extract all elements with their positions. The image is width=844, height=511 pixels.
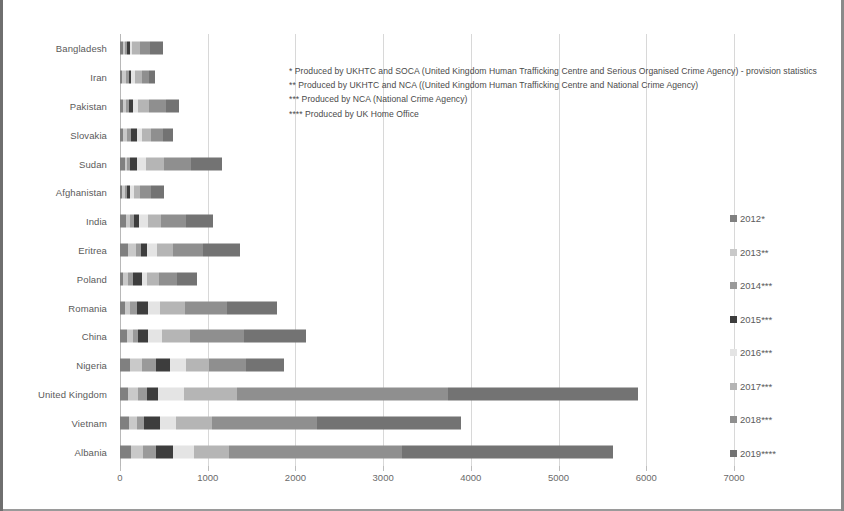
legend-item-2017[interactable]: 2017*** bbox=[730, 381, 772, 392]
x-tick-mark-3000 bbox=[383, 466, 384, 471]
bar-segment bbox=[149, 100, 165, 113]
bar-segment bbox=[142, 359, 156, 372]
bar-afghanistan[interactable] bbox=[120, 186, 734, 199]
y-axis-label-sudan: Sudan bbox=[79, 158, 107, 169]
bar-segment bbox=[137, 301, 148, 314]
bar-segment bbox=[203, 244, 240, 257]
x-tick-mark-5000 bbox=[559, 466, 560, 471]
bar-segment bbox=[138, 330, 148, 343]
y-axis-category-labels: BangladeshIranPakistanSlovakiaSudanAfgha… bbox=[3, 34, 115, 466]
bar-bangladesh[interactable] bbox=[120, 42, 734, 55]
bar-albania[interactable] bbox=[120, 445, 734, 458]
bar-segment bbox=[130, 157, 137, 170]
legend-item-2019[interactable]: 2019**** bbox=[730, 448, 776, 459]
x-tick-label-2000: 2000 bbox=[285, 472, 306, 483]
footnote-1: * Produced by UKHTC and SOCA (United Kin… bbox=[289, 64, 834, 78]
bar-segment bbox=[148, 301, 160, 314]
legend-label: 2016*** bbox=[740, 347, 772, 358]
legend-label: 2018*** bbox=[740, 414, 772, 425]
bar-segment bbox=[185, 301, 227, 314]
bar-segment bbox=[128, 244, 135, 257]
bar-segment bbox=[161, 215, 186, 228]
legend-label: 2014*** bbox=[740, 280, 772, 291]
bar-segment bbox=[212, 416, 317, 429]
bar-segment bbox=[140, 186, 150, 199]
legend-label: 2019**** bbox=[740, 448, 776, 459]
x-tick-mark-1000 bbox=[208, 466, 209, 471]
y-axis-label-united-kingdom: United Kingdom bbox=[38, 389, 107, 400]
y-axis-label-eritrea: Eritrea bbox=[78, 245, 107, 256]
bar-segment bbox=[402, 445, 613, 458]
legend-item-2016[interactable]: 2016*** bbox=[730, 347, 772, 358]
bar-segment bbox=[164, 157, 191, 170]
bar-segment bbox=[448, 388, 637, 401]
bar-segment bbox=[150, 42, 163, 55]
legend-label: 2012* bbox=[740, 213, 765, 224]
stacked-bar-chart: BangladeshIranPakistanSlovakiaSudanAfgha… bbox=[3, 0, 844, 511]
legend-item-2018[interactable]: 2018*** bbox=[730, 414, 772, 425]
bar-sudan[interactable] bbox=[120, 157, 734, 170]
bar-segment bbox=[138, 388, 146, 401]
bar-segment bbox=[237, 388, 448, 401]
bar-segment bbox=[120, 416, 129, 429]
bar-segment bbox=[134, 186, 141, 199]
bar-slovakia[interactable] bbox=[120, 128, 734, 141]
footnote-4: **** Produced by UK Home Office bbox=[289, 107, 834, 121]
y-axis-label-romania: Romania bbox=[68, 302, 107, 313]
bar-china[interactable] bbox=[120, 330, 734, 343]
x-tick-label-5000: 5000 bbox=[548, 472, 569, 483]
bar-segment bbox=[173, 445, 194, 458]
bar-segment bbox=[144, 416, 160, 429]
y-axis-label-nigeria: Nigeria bbox=[76, 360, 107, 371]
legend-item-2014[interactable]: 2014*** bbox=[730, 280, 772, 291]
y-axis-label-india: India bbox=[86, 216, 107, 227]
bar-vietnam[interactable] bbox=[120, 416, 734, 429]
bar-segment bbox=[190, 330, 244, 343]
bar-segment bbox=[177, 272, 197, 285]
bar-segment bbox=[151, 128, 162, 141]
x-tick-label-4000: 4000 bbox=[460, 472, 481, 483]
y-axis-label-bangladesh: Bangladesh bbox=[56, 43, 107, 54]
bar-segment bbox=[184, 388, 238, 401]
bar-united-kingdom[interactable] bbox=[120, 388, 734, 401]
bar-segment bbox=[151, 186, 164, 199]
bar-segment bbox=[156, 359, 171, 372]
bar-segment bbox=[147, 272, 158, 285]
bar-nigeria[interactable] bbox=[120, 359, 734, 372]
bar-poland[interactable] bbox=[120, 272, 734, 285]
y-axis-label-poland: Poland bbox=[77, 273, 107, 284]
bar-segment bbox=[130, 301, 137, 314]
bar-segment bbox=[148, 330, 162, 343]
legend-swatch-icon bbox=[730, 450, 737, 457]
bar-segment bbox=[135, 71, 142, 84]
y-axis-label-pakistan: Pakistan bbox=[70, 101, 107, 112]
bar-segment bbox=[173, 244, 203, 257]
bar-segment bbox=[142, 128, 151, 141]
bar-eritrea[interactable] bbox=[120, 244, 734, 257]
bar-segment bbox=[129, 416, 137, 429]
bar-segment bbox=[120, 388, 128, 401]
legend-swatch-icon bbox=[730, 416, 737, 423]
bar-romania[interactable] bbox=[120, 301, 734, 314]
bar-segment bbox=[317, 416, 461, 429]
bar-india[interactable] bbox=[120, 215, 734, 228]
x-tick-label-7000: 7000 bbox=[723, 472, 744, 483]
bar-segment bbox=[133, 272, 143, 285]
bar-segment bbox=[160, 416, 176, 429]
bar-segment bbox=[160, 301, 185, 314]
bar-segment bbox=[142, 71, 149, 84]
legend-item-2013[interactable]: 2013** bbox=[730, 247, 769, 258]
x-tick-label-1000: 1000 bbox=[197, 472, 218, 483]
bar-segment bbox=[162, 330, 190, 343]
x-tick-label-6000: 6000 bbox=[636, 472, 657, 483]
legend-item-2015[interactable]: 2015*** bbox=[730, 314, 772, 325]
y-axis-label-iran: Iran bbox=[90, 72, 107, 83]
y-axis-label-slovakia: Slovakia bbox=[70, 129, 107, 140]
bar-segment bbox=[120, 330, 127, 343]
bar-segment bbox=[194, 445, 229, 458]
bar-segment bbox=[191, 157, 222, 170]
x-tick-mark-2000 bbox=[295, 466, 296, 471]
bar-segment bbox=[130, 359, 142, 372]
bar-segment bbox=[176, 416, 212, 429]
legend-item-2012[interactable]: 2012* bbox=[730, 213, 765, 224]
